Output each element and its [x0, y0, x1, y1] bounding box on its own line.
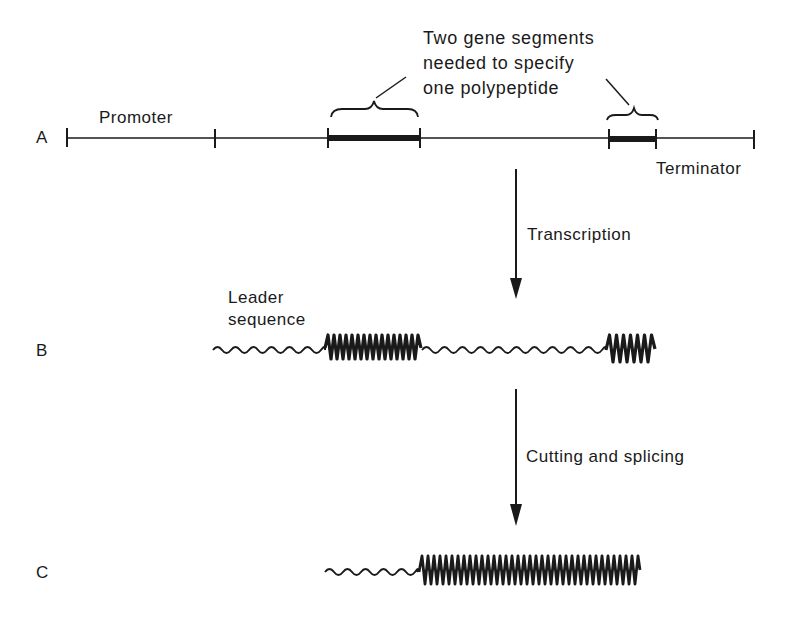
cutting-splicing-arrow [510, 389, 522, 526]
leader-wave-b [213, 347, 325, 353]
gene-diagram [0, 0, 810, 639]
mrna-precursor-b [213, 335, 655, 362]
dna-line-a [67, 128, 754, 149]
exon-coil-c [419, 556, 640, 584]
exon-coil-1-b [325, 335, 421, 359]
brace-segment-2 [607, 108, 658, 120]
mature-mrna-c [325, 556, 640, 584]
pointer-line-2 [606, 79, 629, 105]
pointer-line-1 [376, 77, 406, 98]
exon-coil-2-b [606, 335, 655, 362]
brace-segment-1 [331, 101, 418, 117]
leader-wave-c [325, 569, 418, 575]
transcription-arrow [510, 169, 522, 299]
intron-wave-b [422, 347, 606, 353]
